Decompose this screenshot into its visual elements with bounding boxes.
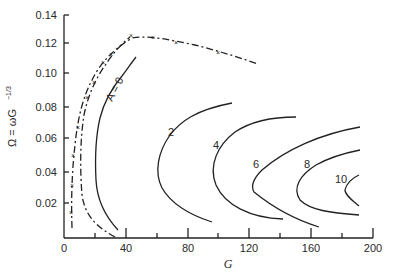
x-tick-label: 0 (61, 242, 67, 254)
svg-text:×: × (101, 59, 105, 66)
svg-text:×: × (70, 182, 74, 189)
y-tick-label: 0.02 (36, 197, 57, 209)
svg-text:×: × (129, 32, 133, 39)
curve-label-6: 6 (253, 158, 259, 170)
x-tick-label: 40 (120, 242, 132, 254)
curve-a2 (158, 103, 232, 222)
x-markers: × × × × × × × × × × × × (69, 32, 220, 216)
svg-text:×: × (69, 209, 73, 216)
y-tick-label: 0.14 (36, 9, 57, 21)
svg-text:×: × (151, 34, 155, 41)
curve-label-8: 8 (304, 158, 310, 170)
x-tick-label: 200 (364, 242, 382, 254)
y-tick-label: 0.10 (36, 67, 57, 79)
curve-label-2: 2 (168, 126, 174, 138)
y-tick-labels: 0.14 0.12 0.10 0.08 0.06 0.04 0.02 (36, 9, 57, 209)
x-axis-title: G (224, 257, 233, 271)
x-tick-labels: 0 40 80 120 160 200 (61, 242, 382, 254)
y-tick-label: 0.06 (36, 132, 57, 144)
svg-text:×: × (174, 39, 178, 46)
svg-text:×: × (109, 51, 113, 58)
y-tick-label: 0.04 (36, 166, 57, 178)
svg-text:×: × (76, 124, 80, 131)
y-tick-label: 0.12 (36, 37, 57, 49)
svg-text:×: × (71, 152, 75, 159)
y-axis-title: Ω = ωG −1/3 (5, 86, 18, 147)
curve-label-10: 10 (335, 173, 347, 185)
svg-text:×: × (216, 49, 220, 56)
curve-label-4: 4 (213, 139, 219, 151)
y-axis-title-exponent: −1/3 (5, 86, 12, 100)
curve-label-a0: A = 0 (103, 75, 126, 103)
y-tick-label: 0.08 (36, 101, 57, 113)
x-tick-label: 80 (182, 242, 194, 254)
chart: 0.14 0.12 0.10 0.08 0.06 0.04 0.02 0 40 … (0, 0, 393, 279)
y-axis-title-text: Ω = ωG (6, 109, 18, 147)
x-tick-label: 120 (240, 242, 258, 254)
svg-text:×: × (92, 79, 96, 86)
x-tick-label: 160 (302, 242, 320, 254)
svg-text:×: × (85, 94, 89, 101)
curve-dash-dot-boundary (81, 37, 130, 237)
